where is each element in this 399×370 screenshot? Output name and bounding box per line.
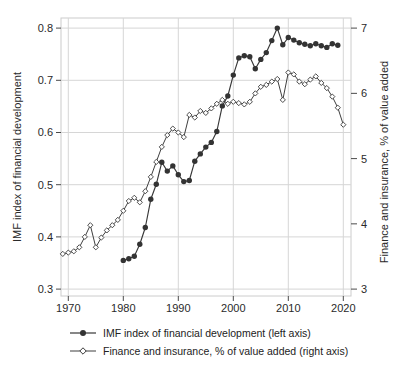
finance-share-point — [242, 102, 247, 107]
right-axis-tick-label: 5 — [361, 153, 367, 165]
imf-index-point — [275, 25, 280, 30]
imf-index-point — [242, 53, 247, 58]
imf-index-point — [286, 35, 291, 40]
finance-share-point — [275, 76, 280, 81]
legend-item-imf-index: IMF index of financial development (left… — [70, 324, 348, 342]
finance-share-point — [335, 105, 340, 110]
left-axis-tick-label: 0.6 — [38, 126, 53, 138]
imf-index-point — [159, 160, 164, 165]
left-axis-tick-label: 0.4 — [38, 231, 53, 243]
x-axis-tick-label: 1990 — [166, 302, 190, 314]
imf-index-point — [203, 144, 208, 149]
imf-index-point — [165, 168, 170, 173]
imf-index-point — [132, 254, 137, 259]
imf-index-point — [247, 54, 252, 59]
imf-index-point — [313, 41, 318, 46]
imf-index-point — [187, 178, 192, 183]
right-axis-tick-label: 3 — [361, 283, 367, 295]
x-axis-tick-label: 1970 — [56, 302, 80, 314]
imf-index-point — [170, 163, 175, 168]
finance-share-point — [286, 70, 291, 75]
imf-index-point — [143, 225, 148, 230]
imf-index-point — [264, 50, 269, 55]
finance-share-line — [63, 73, 344, 254]
legend-label-finance-share: Finance and insurance, % of value added … — [103, 345, 348, 357]
finance-share-point — [187, 112, 192, 117]
x-axis-tick-label: 2000 — [221, 302, 245, 314]
finance-share-point — [280, 97, 285, 102]
imf-index-point — [225, 93, 230, 98]
imf-index-point — [148, 197, 153, 202]
imf-index-point — [121, 258, 126, 263]
right-axis-tick-label: 4 — [361, 218, 367, 230]
imf-index-point — [297, 40, 302, 45]
finance-share-point — [148, 174, 153, 179]
left-axis-title: IMF index of financial development — [11, 72, 23, 242]
imf-index-point — [137, 242, 142, 247]
finance-share-point — [231, 99, 236, 104]
imf-index-line — [123, 28, 337, 260]
right-axis-tick-label: 7 — [361, 22, 367, 34]
imf-index-point — [269, 38, 274, 43]
imf-index-point — [291, 37, 296, 42]
finance-share-point — [330, 94, 335, 99]
imf-index-point — [319, 43, 324, 48]
open-diamond-line-icon — [70, 346, 96, 356]
right-axis-tick-label: 6 — [361, 87, 367, 99]
finance-share-point — [159, 144, 164, 149]
legend-label-imf-index: IMF index of financial development (left… — [103, 327, 311, 339]
imf-index-point — [330, 41, 335, 46]
x-axis-tick-label: 1980 — [111, 302, 135, 314]
finance-share-point — [236, 101, 241, 106]
imf-index-point — [192, 159, 197, 164]
imf-index-point — [126, 256, 131, 261]
finance-share-point — [126, 198, 131, 203]
x-axis-tick-label: 2010 — [276, 302, 300, 314]
left-axis-tick-label: 0.7 — [38, 74, 53, 86]
x-axis-tick-label: 2020 — [331, 302, 355, 314]
left-axis-tick-label: 0.8 — [38, 22, 53, 34]
finance-share-point — [264, 82, 269, 87]
finance-share-point — [121, 208, 126, 213]
filled-circle-line-icon — [70, 328, 96, 338]
legend: IMF index of financial development (left… — [70, 324, 348, 360]
imf-index-point — [258, 57, 263, 62]
chart-figure: 0.30.40.50.60.70.83456719701980199020002… — [0, 0, 399, 370]
left-axis-tick-label: 0.3 — [38, 283, 53, 295]
finance-share-point — [93, 245, 98, 250]
finance-share-point — [143, 189, 148, 194]
imf-index-point — [181, 179, 186, 184]
imf-index-point — [324, 45, 329, 50]
imf-index-point — [214, 129, 219, 134]
left-axis-tick-label: 0.5 — [38, 179, 53, 191]
imf-index-point — [198, 151, 203, 156]
finance-share-point — [88, 223, 93, 228]
line-chart-canvas: 0.30.40.50.60.70.83456719701980199020002… — [0, 0, 399, 370]
finance-share-point — [66, 250, 71, 255]
legend-item-finance-share: Finance and insurance, % of value added … — [70, 342, 348, 360]
imf-index-point — [302, 42, 307, 47]
finance-share-point — [82, 234, 87, 239]
imf-index-point — [231, 72, 236, 77]
plot-frame — [61, 18, 351, 296]
imf-index-point — [236, 55, 241, 60]
right-axis-title: Finance and insurance, % of value added — [378, 61, 390, 263]
imf-index-point — [176, 172, 181, 177]
imf-index-point — [253, 66, 258, 71]
finance-share-point — [154, 159, 159, 164]
imf-index-point — [280, 42, 285, 47]
imf-index-point — [220, 103, 225, 108]
imf-index-point — [154, 182, 159, 187]
finance-share-point — [269, 79, 274, 84]
finance-share-point — [247, 99, 252, 104]
imf-index-point — [209, 140, 214, 145]
imf-index-point — [308, 43, 313, 48]
finance-share-point — [341, 122, 346, 127]
imf-index-point — [335, 43, 340, 48]
